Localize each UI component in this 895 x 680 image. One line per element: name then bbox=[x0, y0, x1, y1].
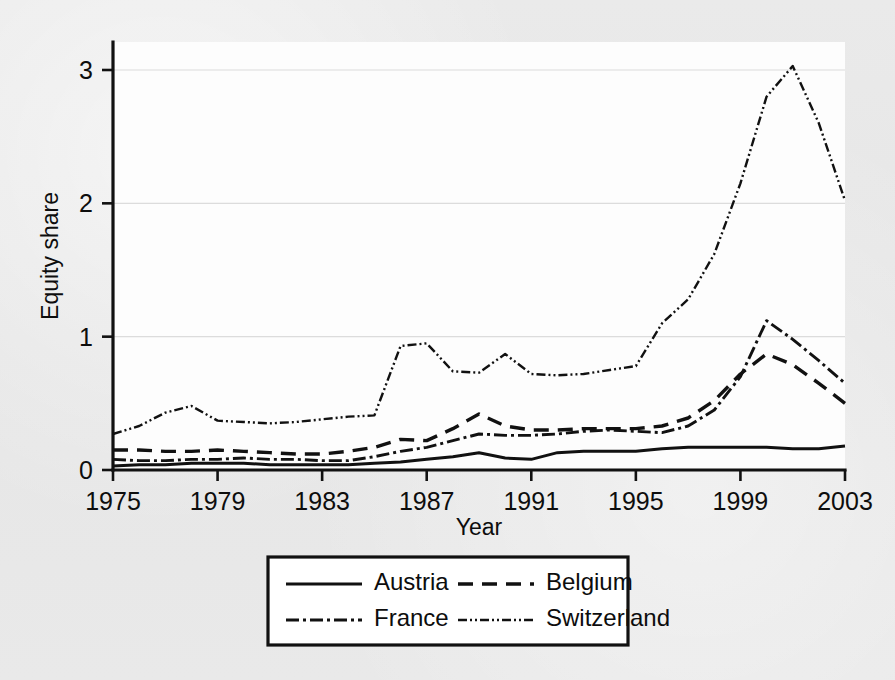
y-tick-label: 1 bbox=[79, 323, 93, 351]
legend-label-switzerland: Switzerland bbox=[546, 604, 670, 631]
y-tick-label: 0 bbox=[79, 456, 93, 484]
x-tick-label: 1987 bbox=[399, 487, 455, 515]
plot-area-background bbox=[113, 42, 845, 470]
y-axis-title: Equity share bbox=[37, 192, 63, 320]
x-axis-ticks bbox=[113, 470, 845, 481]
x-tick-label: 1999 bbox=[713, 487, 769, 515]
y-tick-label: 2 bbox=[79, 189, 93, 217]
x-tick-label: 1979 bbox=[190, 487, 246, 515]
y-axis-tick-labels: 0123 bbox=[79, 56, 93, 484]
x-tick-label: 1995 bbox=[608, 487, 664, 515]
x-axis-tick-labels: 19751979198319871991199519992003 bbox=[85, 487, 873, 515]
legend-label-belgium: Belgium bbox=[546, 568, 633, 595]
legend-label-france: France bbox=[374, 604, 449, 631]
y-tick-label: 3 bbox=[79, 56, 93, 84]
x-tick-label: 1983 bbox=[294, 487, 350, 515]
x-tick-label: 2003 bbox=[817, 487, 873, 515]
legend-label-austria: Austria bbox=[374, 568, 449, 595]
y-axis-ticks bbox=[102, 70, 113, 470]
x-axis-title: Year bbox=[456, 514, 503, 540]
x-tick-label: 1975 bbox=[85, 487, 141, 515]
chart-figure: 0123 19751979198319871991199519992003 Eq… bbox=[0, 0, 895, 680]
x-tick-label: 1991 bbox=[503, 487, 559, 515]
